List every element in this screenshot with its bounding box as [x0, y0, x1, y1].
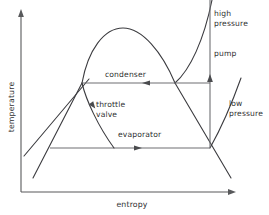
- high-pressure-label-line1: high: [214, 9, 231, 18]
- high-pressure-label-line2: pressure: [214, 19, 248, 28]
- ts-diagram-canvas: temperature entropy high pressure pump l…: [0, 0, 269, 215]
- low-pressure-label-line1: low: [229, 99, 242, 108]
- low-pressure-label-line2: pressure: [229, 109, 263, 118]
- y-axis: [18, 9, 24, 192]
- throttle-valve-label-line2: valve: [96, 110, 117, 119]
- evaporator-process: [50, 145, 210, 150]
- y-axis-arrowhead-icon: [18, 9, 24, 17]
- evaporator-arrowhead-icon: [134, 145, 142, 150]
- ts-diagram-figure: temperature entropy high pressure pump l…: [0, 0, 269, 215]
- pump-label: pump: [214, 49, 236, 58]
- throttle-valve-arrowhead-icon: [89, 101, 96, 108]
- condenser-label: condenser: [105, 70, 147, 79]
- x-axis-arrowhead-icon: [228, 189, 236, 195]
- pump-arrowhead-icon: [207, 74, 213, 82]
- condenser-arrowhead-icon: [142, 80, 150, 85]
- liquid-isobar-line: [24, 79, 89, 156]
- x-axis: [21, 189, 236, 195]
- condenser-process: [82, 80, 210, 85]
- saturated-liquid-line: [33, 83, 82, 178]
- throttle-valve-label-line1: throttle: [96, 100, 126, 109]
- high-pressure-isobar-curve: [175, 0, 212, 83]
- x-axis-label: entropy: [116, 200, 147, 209]
- pump-process: [207, 0, 213, 148]
- evaporator-label: evaporator: [118, 130, 162, 139]
- saturated-vapour-line: [175, 83, 231, 178]
- y-axis-label: temperature: [7, 82, 16, 133]
